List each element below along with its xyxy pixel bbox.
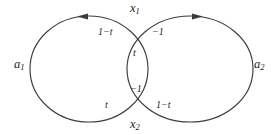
label-lens-upper-weight: t xyxy=(133,48,136,58)
figure-canvas: x1 x2 a1 a2 1−t −1 t −1 t 1−t xyxy=(0,0,275,135)
label-strand-x1: x1 xyxy=(130,2,140,16)
left-loop-arrowhead-icon xyxy=(77,14,88,20)
knot-diagram-svg xyxy=(0,0,275,135)
label-bottom-left-weight: t xyxy=(105,100,108,110)
label-bottom-right-weight: 1−t xyxy=(156,100,171,110)
label-loop-a2: a2 xyxy=(254,58,265,72)
label-loop-a1: a1 xyxy=(14,58,25,72)
left-loop-curve xyxy=(30,16,148,122)
right-loop-arrowhead-icon xyxy=(192,14,203,20)
label-lens-lower-weight: −1 xyxy=(130,84,142,94)
label-top-right-weight: −1 xyxy=(152,27,164,37)
label-strand-x2: x2 xyxy=(130,118,140,132)
right-loop-curve xyxy=(127,16,253,122)
label-top-left-weight: 1−t xyxy=(98,27,113,37)
